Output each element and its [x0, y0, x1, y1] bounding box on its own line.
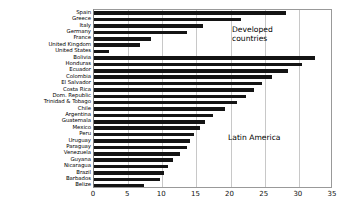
bar-fill	[94, 171, 164, 175]
bar	[94, 184, 144, 188]
bar	[94, 101, 237, 105]
bar	[94, 171, 164, 175]
gridline-15	[196, 10, 197, 187]
bar	[94, 139, 190, 143]
x-tick-label-0: 0	[91, 190, 95, 199]
bar	[94, 18, 241, 22]
bar-fill	[94, 158, 173, 162]
bar	[94, 56, 315, 60]
bar	[94, 120, 205, 124]
bar	[94, 107, 225, 111]
bar-fill	[94, 184, 144, 188]
bar-fill	[94, 63, 302, 67]
x-tick-label-5: 5	[125, 190, 129, 199]
category-label: Nicaragua	[64, 163, 91, 168]
category-label: Trinidad & Tobago	[44, 99, 91, 104]
bar	[94, 11, 286, 15]
bar-fill	[94, 43, 140, 47]
x-tick-label-25: 25	[259, 190, 268, 199]
bar	[94, 24, 203, 28]
category-label: Peru	[79, 131, 91, 136]
category-label: Ecuador	[69, 67, 91, 72]
bar	[94, 88, 254, 92]
category-label: Belize	[75, 182, 91, 187]
bar-fill	[94, 107, 225, 111]
bar-fill	[94, 114, 213, 118]
bar	[94, 133, 194, 137]
bar-fill	[94, 133, 194, 137]
bar	[94, 95, 246, 99]
bar-fill	[94, 11, 286, 15]
x-tick-label-35: 35	[328, 190, 337, 199]
bar-fill	[94, 101, 237, 105]
bar	[94, 126, 200, 130]
bar	[94, 178, 160, 182]
bar-chart: SpainGreeceItalyGermanyFranceUnited King…	[0, 0, 342, 210]
category-label: El Salvador	[61, 80, 91, 85]
bar-fill	[94, 56, 315, 60]
bar-fill	[94, 82, 262, 86]
bar-fill	[94, 120, 205, 124]
x-tick-label-20: 20	[225, 190, 234, 199]
annotation-latin-america: Latin America	[228, 133, 281, 142]
bar	[94, 75, 272, 79]
bar	[94, 69, 288, 73]
bar-fill	[94, 75, 272, 79]
bar	[94, 165, 168, 169]
bar-fill	[94, 152, 180, 156]
bar-fill	[94, 50, 109, 54]
bar	[94, 31, 187, 35]
gridline-30	[299, 10, 300, 187]
bar-fill	[94, 178, 160, 182]
bar	[94, 82, 262, 86]
bar	[94, 158, 173, 162]
x-tick-label-15: 15	[191, 190, 200, 199]
x-axis: 05101520253035	[0, 190, 342, 208]
bar	[94, 43, 140, 47]
x-tick-label-30: 30	[293, 190, 302, 199]
bar-fill	[94, 139, 190, 143]
bar-fill	[94, 24, 203, 28]
bar-fill	[94, 146, 187, 150]
category-label: United States	[55, 48, 91, 53]
bar	[94, 63, 302, 67]
plot-area	[93, 9, 332, 188]
bar-fill	[94, 126, 200, 130]
bar	[94, 152, 180, 156]
x-tick-label-10: 10	[157, 190, 166, 199]
bar	[94, 114, 213, 118]
bar-fill	[94, 69, 288, 73]
category-label: France	[73, 35, 91, 40]
bar-fill	[94, 95, 246, 99]
bar-fill	[94, 88, 254, 92]
bar-fill	[94, 31, 187, 35]
category-label: Greece	[72, 16, 91, 21]
bar	[94, 37, 151, 41]
bar	[94, 50, 109, 54]
bar-fill	[94, 18, 241, 22]
bar-fill	[94, 165, 168, 169]
annotation-developed-countries: Developed countries	[232, 25, 273, 44]
bar	[94, 146, 187, 150]
bar-fill	[94, 37, 151, 41]
